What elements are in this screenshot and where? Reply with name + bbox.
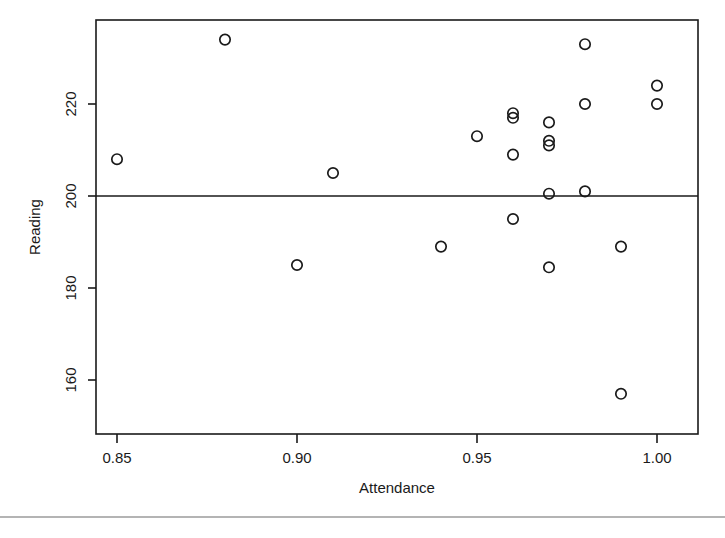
data-point [436, 241, 446, 251]
y-tick-label-200: 200 [62, 183, 79, 208]
data-point [652, 99, 662, 109]
x-tick-label-085: 0.85 [102, 449, 131, 466]
y-tick-label-160: 160 [62, 367, 79, 392]
scatter-plot: 160 180 200 220 Reading 0.85 0.90 0.95 1… [0, 0, 725, 538]
y-tick-label-220: 220 [62, 91, 79, 116]
data-point [544, 117, 554, 127]
data-point [580, 39, 590, 49]
data-point [580, 99, 590, 109]
x-tick-label-095: 0.95 [462, 449, 491, 466]
y-axis-title: Reading [26, 199, 43, 255]
y-tick-label-180: 180 [62, 275, 79, 300]
x-tick-label-090: 0.90 [282, 449, 311, 466]
data-point [508, 149, 518, 159]
data-point [112, 154, 122, 164]
data-point [472, 131, 482, 141]
x-tick-label-100: 1.00 [642, 449, 671, 466]
data-point [328, 168, 338, 178]
x-axis-ticks [117, 434, 657, 443]
data-points-layer [112, 34, 662, 399]
data-point [544, 189, 554, 199]
data-point [292, 260, 302, 270]
data-point [652, 80, 662, 90]
plot-frame [96, 20, 698, 434]
data-point [616, 389, 626, 399]
x-axis-title: Attendance [359, 479, 435, 496]
y-axis-ticks [88, 104, 96, 380]
figure-container: 160 180 200 220 Reading 0.85 0.90 0.95 1… [0, 0, 725, 538]
data-point [544, 262, 554, 272]
data-point [220, 34, 230, 44]
data-point [616, 241, 626, 251]
data-point [508, 214, 518, 224]
data-point [580, 186, 590, 196]
